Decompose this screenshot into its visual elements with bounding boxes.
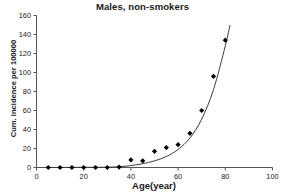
data-point-marker — [69, 165, 74, 170]
chart-figure: Males, non-smokers Cum. incidence per 10… — [0, 0, 285, 195]
x-tick-label: 40 — [127, 172, 135, 181]
data-point-marker — [58, 165, 63, 170]
y-tick-label: 0 — [27, 163, 31, 172]
data-point-marker — [93, 165, 98, 170]
fitted-curve — [48, 25, 230, 168]
y-tick-label: 80 — [23, 87, 31, 96]
data-point-marker — [152, 149, 157, 154]
data-point-marker — [199, 108, 204, 113]
y-tick-label: 100 — [19, 68, 31, 77]
data-point-marker — [140, 158, 145, 163]
x-tick-label: 60 — [174, 172, 182, 181]
plot-area: 020406080100120140160 020406080100 — [0, 0, 285, 195]
y-tick-label: 40 — [23, 125, 31, 134]
x-tick-label: 20 — [80, 172, 88, 181]
data-point-marker — [105, 165, 110, 170]
data-point-marker — [164, 145, 169, 150]
x-tick-label: 0 — [34, 172, 38, 181]
y-tick-label: 120 — [19, 49, 31, 58]
x-tick-label: 100 — [266, 172, 278, 181]
y-tick-label: 140 — [19, 30, 31, 39]
axes — [37, 16, 273, 168]
data-point-marker — [128, 157, 133, 162]
data-point-marker — [46, 165, 51, 170]
data-point-marker — [211, 74, 216, 79]
y-tick-label: 160 — [19, 11, 31, 20]
y-tick-label: 60 — [23, 106, 31, 115]
data-point-marker — [81, 165, 86, 170]
x-tick-label: 80 — [221, 172, 229, 181]
y-tick-label: 20 — [23, 144, 31, 153]
data-point-marker — [176, 142, 181, 147]
data-point-marker — [117, 164, 122, 169]
y-axis-ticks: 020406080100120140160 — [19, 11, 37, 172]
fitted-curve-path — [48, 25, 230, 168]
x-axis-ticks: 020406080100 — [34, 168, 278, 182]
data-points — [46, 38, 228, 171]
